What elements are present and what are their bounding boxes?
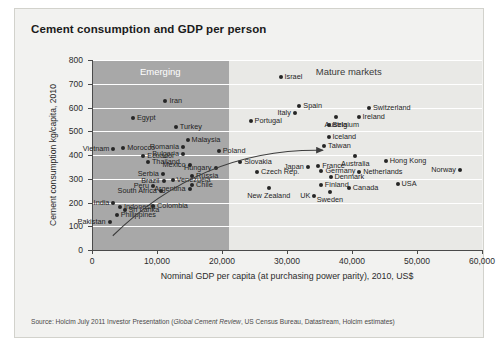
data-point[interactable] xyxy=(111,147,115,151)
data-point-label: Spain xyxy=(303,102,322,110)
data-point-label: Hong Kong xyxy=(390,157,427,165)
data-point[interactable] xyxy=(396,182,400,186)
x-tick xyxy=(222,250,223,254)
data-point-label: Norway xyxy=(431,166,456,174)
data-point[interactable] xyxy=(327,123,331,127)
data-point[interactable] xyxy=(297,104,301,108)
y-tick xyxy=(88,60,92,61)
data-point-label: Iran xyxy=(169,97,182,105)
data-point[interactable] xyxy=(312,194,316,198)
x-tick-label: 30,000 xyxy=(274,256,300,266)
data-point-label: Mexico xyxy=(162,161,185,169)
data-point[interactable] xyxy=(108,220,112,224)
y-tick xyxy=(88,250,92,251)
x-tick-label: 20,000 xyxy=(209,256,235,266)
data-point-label: Netherlands xyxy=(363,168,402,176)
data-point-label: Vietnam xyxy=(83,145,110,153)
x-axis-label: Nominal GDP per capita (at purchasing po… xyxy=(92,271,482,281)
data-point[interactable] xyxy=(328,190,332,194)
scatter-plot: EmergingMature markets010,00020,00030,00… xyxy=(31,47,469,285)
data-point[interactable] xyxy=(171,178,175,182)
data-point[interactable] xyxy=(279,75,283,79)
data-point-label: South Africa xyxy=(118,187,157,195)
x-tick xyxy=(482,250,483,254)
data-point-label: Chile xyxy=(196,181,213,189)
y-tick xyxy=(88,203,92,204)
data-point-label: New Zealand xyxy=(247,192,290,200)
data-point[interactable] xyxy=(319,169,323,173)
x-tick xyxy=(352,250,353,254)
region-label-mature-markets: Mature markets xyxy=(316,65,382,76)
gridline xyxy=(92,131,482,132)
data-point-label: Slovakia xyxy=(244,158,272,166)
data-point-label: Switzerland xyxy=(373,104,411,112)
data-point-label: Egypt xyxy=(137,114,156,122)
gridline xyxy=(92,84,482,85)
data-point-label: Pakistan xyxy=(78,218,106,226)
data-point-label: Poland xyxy=(223,147,246,155)
data-point[interactable] xyxy=(141,154,145,158)
data-point[interactable] xyxy=(316,164,320,168)
data-point[interactable] xyxy=(238,160,242,164)
data-point-label: India xyxy=(94,199,110,207)
data-point[interactable] xyxy=(159,189,163,193)
x-tick xyxy=(92,250,93,254)
data-point-label: Colombia xyxy=(157,202,188,210)
x-tick-label: 60,000 xyxy=(469,256,495,266)
x-tick-label: 50,000 xyxy=(404,256,430,266)
data-point[interactable] xyxy=(249,119,253,123)
data-point[interactable] xyxy=(327,135,331,139)
chart-area: EmergingMature markets010,00020,00030,00… xyxy=(31,47,469,285)
data-point[interactable] xyxy=(334,115,338,119)
data-point[interactable] xyxy=(146,160,150,164)
data-point[interactable] xyxy=(367,106,371,110)
data-point[interactable] xyxy=(214,166,218,170)
data-point-label: Sweden xyxy=(317,196,343,204)
data-point[interactable] xyxy=(118,205,122,209)
data-point[interactable] xyxy=(121,146,125,150)
data-point[interactable] xyxy=(458,168,462,172)
data-point[interactable] xyxy=(353,154,357,158)
data-point[interactable] xyxy=(181,145,185,149)
data-point[interactable] xyxy=(186,138,190,142)
data-point[interactable] xyxy=(174,125,178,129)
data-point[interactable] xyxy=(329,175,333,179)
data-point[interactable] xyxy=(190,183,194,187)
x-tick xyxy=(417,250,418,254)
gridline xyxy=(92,226,482,227)
data-point[interactable] xyxy=(384,159,388,163)
data-point[interactable] xyxy=(357,115,361,119)
data-point[interactable] xyxy=(306,165,310,169)
data-point[interactable] xyxy=(322,144,326,148)
data-point[interactable] xyxy=(111,201,115,205)
data-point-label: Taiwan xyxy=(328,142,351,150)
y-axis-label: Cement consumption kg/capita, 2010 xyxy=(48,55,58,255)
data-point[interactable] xyxy=(161,172,165,176)
slide-card: Cement consumption and GDP per person Em… xyxy=(14,8,484,338)
data-point-label: Turkey xyxy=(180,123,202,131)
source-suffix: , US Census Bureau, Datastream, Holcim e… xyxy=(241,318,395,325)
source-publication: Global Cement Review xyxy=(173,318,240,325)
data-point[interactable] xyxy=(131,116,135,120)
y-tick xyxy=(88,108,92,109)
y-tick xyxy=(88,131,92,132)
source-note: Source: Holcim July 2011 Investor Presen… xyxy=(31,318,395,325)
data-point[interactable] xyxy=(255,170,259,174)
data-point[interactable] xyxy=(319,183,323,187)
data-point-label: Ireland xyxy=(363,113,385,121)
data-point-label: Malaysia xyxy=(192,136,221,144)
data-point-label: Belgium xyxy=(333,121,359,129)
data-point[interactable] xyxy=(162,179,166,183)
source-prefix: Source: Holcim July 2011 Investor Presen… xyxy=(31,318,173,325)
data-point[interactable] xyxy=(163,99,167,103)
data-point[interactable] xyxy=(181,152,185,156)
data-point[interactable] xyxy=(115,213,119,217)
data-point-label: UK xyxy=(300,192,310,200)
data-point[interactable] xyxy=(217,149,221,153)
data-point-label: Japan xyxy=(284,163,304,171)
data-point-label: Portugal xyxy=(255,117,282,125)
data-point-label: Philippines xyxy=(121,211,156,219)
data-point[interactable] xyxy=(293,111,297,115)
data-point[interactable] xyxy=(188,187,192,191)
data-point[interactable] xyxy=(267,186,271,190)
